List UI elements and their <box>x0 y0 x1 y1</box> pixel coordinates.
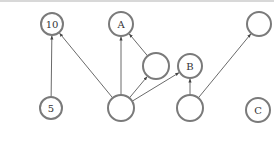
node-circle <box>143 53 169 79</box>
node-n5: 5 <box>40 97 62 119</box>
edge-nBR-to-nTR <box>198 34 250 98</box>
node-nBR <box>177 95 203 121</box>
node-circle <box>177 95 203 121</box>
node-label: B <box>186 61 193 72</box>
edge-nHub-to-nMid <box>129 77 147 98</box>
graph-canvas: 10AB5C <box>0 0 274 146</box>
node-nHub <box>108 95 134 121</box>
node-n10: 10 <box>41 13 63 35</box>
node-circle <box>108 95 134 121</box>
node-label: A <box>116 19 125 30</box>
node-nA: A <box>109 12 133 36</box>
nodes-layer: 10AB5C <box>40 12 271 122</box>
edge-nHub-to-n10 <box>60 33 113 98</box>
node-nC: C <box>246 98 270 122</box>
edge-n5-to-n10 <box>51 36 52 97</box>
node-nTR <box>247 12 271 36</box>
node-label: 5 <box>48 103 54 114</box>
node-circle <box>247 12 271 36</box>
node-label: C <box>254 105 262 116</box>
edge-nMid-to-nA <box>129 34 147 56</box>
node-nMid <box>143 53 169 79</box>
node-nB: B <box>178 54 202 78</box>
node-label: 10 <box>46 19 59 30</box>
